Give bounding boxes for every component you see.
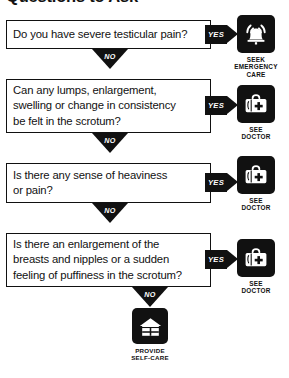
outcome-provide-self-care: PROVIDE SELF-CARE: [105, 308, 195, 361]
question-text-line: feeling of puffiness in the scrotum?: [13, 268, 205, 283]
outcome-caption: SEE DOCTOR: [241, 197, 270, 212]
outcome-caption-line: SEEK: [234, 56, 277, 64]
outcome-caption-line: SEE: [241, 126, 270, 134]
outcome-caption: SEE DOCTOR: [241, 280, 270, 295]
no-label: NO: [132, 290, 168, 299]
medical-bag-icon: [237, 239, 275, 277]
question-text-line: Can any lumps, enlargement,: [13, 83, 205, 98]
outcome-caption-line: DOCTOR: [241, 133, 270, 141]
question-box-2: Can any lumps, enlargement, swelling or …: [6, 79, 211, 133]
no-arrow-1: NO: [92, 49, 128, 69]
question-text-line: Is there any sense of heaviness: [13, 168, 205, 183]
question-box-1: Do you have severe testicular pain?: [6, 20, 211, 49]
outcome-caption-line: CARE: [234, 71, 277, 79]
page-title: Questions to Ask: [6, 0, 138, 6]
question-text-line: Is there an enlargement of the: [13, 237, 205, 252]
no-label: NO: [92, 206, 128, 215]
no-label: NO: [92, 136, 128, 145]
outcome-see-doctor-2: SEE DOCTOR: [224, 156, 288, 212]
flowchart-canvas: Questions to Ask Do you have severe test…: [0, 0, 289, 378]
no-arrow-3: NO: [92, 203, 128, 223]
outcome-caption-line: EMERGENCY: [234, 63, 277, 71]
no-arrow-2: NO: [92, 133, 128, 153]
outcome-caption-line: PROVIDE: [131, 347, 169, 354]
outcome-caption: SEE DOCTOR: [241, 126, 270, 141]
outcome-caption: PROVIDE SELF-CARE: [131, 347, 169, 362]
question-box-4: Is there an enlargement of the breasts a…: [6, 233, 211, 287]
question-text-line: breasts and nipples or a sudden: [13, 252, 205, 267]
question-text-line: or pain?: [13, 183, 205, 198]
outcome-caption-line: SELF-CARE: [131, 354, 169, 361]
outcome-seek-emergency-care: SEEK EMERGENCY CARE: [224, 15, 288, 78]
question-text-line: be felt in the scrotum?: [13, 114, 205, 129]
question-box-3: Is there any sense of heaviness or pain?: [6, 163, 211, 203]
outcome-caption-line: DOCTOR: [241, 204, 270, 212]
question-text-line: Do you have severe testicular pain?: [13, 27, 205, 42]
medical-bag-icon: [237, 156, 275, 194]
alarm-bell-icon: [237, 15, 275, 53]
outcome-caption-line: SEE: [241, 197, 270, 205]
question-text-line: swelling or change in consistency: [13, 98, 205, 113]
house-icon: [132, 308, 168, 344]
outcome-see-doctor-1: SEE DOCTOR: [224, 85, 288, 141]
outcome-caption-line: DOCTOR: [241, 287, 270, 295]
outcome-see-doctor-3: SEE DOCTOR: [224, 239, 288, 295]
no-label: NO: [92, 52, 128, 61]
outcome-caption-line: SEE: [241, 280, 270, 288]
no-arrow-4: NO: [132, 287, 168, 307]
outcome-caption: SEEK EMERGENCY CARE: [234, 56, 277, 79]
medical-bag-icon: [237, 85, 275, 123]
